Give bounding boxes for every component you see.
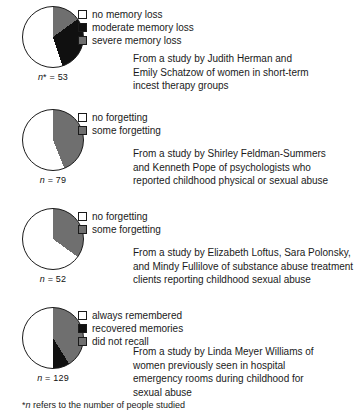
- description-line: clients reporting childhood sexual abuse: [133, 273, 355, 287]
- pie-chart-2-wrap: n = 79: [22, 109, 84, 185]
- legend-label: some forgetting: [92, 125, 161, 137]
- pie-chart-2-n-label: n = 79: [22, 175, 84, 185]
- legend-label: moderate memory loss: [92, 22, 194, 34]
- pie-chart-1: [22, 6, 84, 68]
- legend-3: no forgetting some forgetting: [78, 210, 228, 236]
- pie-chart-3-n-label: n = 52: [22, 274, 84, 284]
- legend-item: no memory loss: [78, 8, 228, 21]
- pie-chart-4-n-label: n = 129: [22, 373, 84, 383]
- n-value-4: = 129: [42, 373, 68, 383]
- swatch-white-icon: [78, 311, 87, 320]
- description-line: From a study by Elizabeth Loftus, Sara P…: [133, 246, 355, 260]
- pie-chart-4-wrap: n = 129: [22, 307, 84, 383]
- description-line: Emily Schatzow of women in short-term: [133, 66, 355, 80]
- pie-chart-1-n-label: n* = 53: [22, 72, 84, 82]
- pie-chart-4: [22, 307, 84, 369]
- legend-item: severe memory loss: [78, 34, 228, 47]
- description-line: women previously seen in hospital: [133, 359, 355, 373]
- legend-4: always remembered recovered memories did…: [78, 309, 228, 348]
- legend-label: no memory loss: [92, 9, 163, 21]
- legend-item: always remembered: [78, 309, 228, 322]
- study-panel-2: n = 79 no forgetting some forgetting Fro…: [0, 103, 357, 203]
- swatch-black-icon: [78, 23, 87, 32]
- description-line: From a study by Linda Meyer Williams of: [133, 345, 355, 359]
- swatch-white-icon: [78, 10, 87, 19]
- study-panel-3: n = 52 no forgetting some forgetting Fro…: [0, 202, 357, 302]
- swatch-gray-icon: [78, 126, 87, 135]
- legend-label: recovered memories: [92, 323, 183, 335]
- legend-label: severe memory loss: [92, 35, 181, 47]
- legend-item: moderate memory loss: [78, 21, 228, 34]
- swatch-white-icon: [78, 212, 87, 221]
- pie-chart-2: [22, 109, 84, 171]
- pie-chart-3-wrap: n = 52: [22, 208, 84, 284]
- footnote: *n refers to the number of people studie…: [22, 399, 185, 411]
- description-line: and Mindy Fullilove of substance abuse t…: [133, 260, 355, 274]
- n-value-3: = 52: [45, 274, 66, 284]
- swatch-gray-icon: [78, 337, 87, 346]
- legend-item: some forgetting: [78, 223, 228, 236]
- legend-item: no forgetting: [78, 111, 228, 124]
- description-line: From a study by Judith Herman and: [133, 52, 355, 66]
- legend-label: no forgetting: [92, 211, 148, 223]
- description-line: and Kenneth Pope of psychologists who: [133, 161, 355, 175]
- description-line: incest therapy groups: [133, 79, 355, 93]
- legend-label: some forgetting: [92, 224, 161, 236]
- legend-2: no forgetting some forgetting: [78, 111, 228, 137]
- study-description-1: From a study by Judith Herman and Emily …: [133, 52, 355, 93]
- swatch-white-icon: [78, 113, 87, 122]
- swatch-gray-icon: [78, 36, 87, 45]
- description-line: reported childhood physical or sexual ab…: [133, 174, 355, 188]
- study-panel-4: n = 129 always remembered recovered memo…: [0, 301, 357, 401]
- swatch-black-icon: [78, 324, 87, 333]
- legend-item: some forgetting: [78, 124, 228, 137]
- legend-item: recovered memories: [78, 322, 228, 335]
- description-line: emergency rooms during childhood for: [133, 372, 355, 386]
- description-line: From a study by Shirley Feldman-Summers: [133, 147, 355, 161]
- study-description-4: From a study by Linda Meyer Williams of …: [133, 345, 355, 399]
- legend-item: no forgetting: [78, 210, 228, 223]
- pie-chart-1-wrap: n* = 53: [22, 6, 84, 82]
- swatch-gray-icon: [78, 225, 87, 234]
- n-value-2: = 79: [45, 175, 66, 185]
- n-value-1: = 53: [47, 72, 68, 82]
- pie-chart-3: [22, 208, 84, 270]
- legend-label: always remembered: [92, 310, 182, 322]
- legend-label: no forgetting: [92, 112, 148, 124]
- study-description-2: From a study by Shirley Feldman-Summers …: [133, 147, 355, 188]
- description-line: sexual abuse: [133, 386, 355, 400]
- legend-1: no memory loss moderate memory loss seve…: [78, 8, 228, 47]
- study-panel-1: n* = 53 no memory loss moderate memory l…: [0, 0, 357, 105]
- study-description-3: From a study by Elizabeth Loftus, Sara P…: [133, 246, 355, 287]
- footnote-text: refers to the number of people studied: [31, 400, 186, 410]
